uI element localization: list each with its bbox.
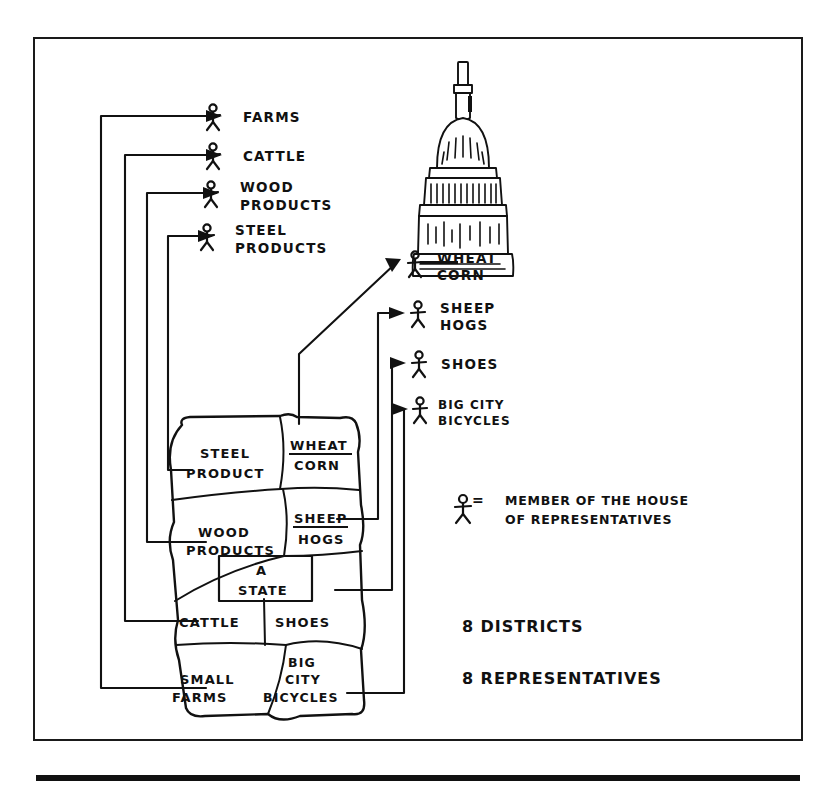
figure-sheep-hogs — [411, 301, 425, 327]
a-state-line2: STATE — [238, 583, 288, 598]
count-representatives: 8 REPRESENTATIVES — [462, 669, 662, 688]
connector-shoes — [335, 357, 406, 590]
label-wheat-corn-line2: CORN — [437, 267, 485, 283]
district-big-city-line2: CITY — [285, 672, 321, 687]
legend-text-line1: MEMBER OF THE HOUSE — [505, 493, 689, 508]
district-steel-product-line2: PRODUCT — [186, 466, 265, 481]
label-steel-products-line2: PRODUCTS — [235, 240, 328, 256]
connector-wheat-corn — [299, 258, 401, 424]
district-steel-product-line1: STEEL — [200, 446, 250, 461]
district-shoes: SHOES — [275, 615, 330, 630]
boundary-cattle-farms — [176, 643, 286, 645]
label-sheep-hogs-line2: HOGS — [440, 317, 488, 333]
legend-text-line2: OF REPRESENTATIVES — [505, 512, 672, 527]
capitol-dome-icon — [413, 62, 514, 276]
label-sheep-hogs-line1: SHEEP — [440, 300, 495, 316]
label-wheat-corn-line1: WHEAT — [437, 250, 497, 266]
label-big-city-bicycles-line1: BIG CITY — [438, 398, 504, 412]
boundary-shoes-bigcity — [286, 641, 362, 649]
boundary-wood-sheep — [283, 489, 287, 556]
district-wood-products-line1: WOOD — [198, 525, 250, 540]
district-big-city-line1: BIG — [288, 655, 316, 670]
district-wheat-corn-line1: WHEAT — [290, 438, 348, 453]
legend-figure-icon — [455, 495, 471, 523]
label-cattle: CATTLE — [243, 148, 306, 164]
district-bicycles: BICYCLES — [263, 690, 339, 705]
label-farms: FARMS — [243, 109, 301, 125]
connector-wood-products — [147, 187, 219, 542]
district-sheep-hogs-line2: HOGS — [298, 532, 345, 547]
diagram-canvas: FARMS CATTLE WOOD PRODUCTS STEEL PRODUCT… — [0, 0, 836, 795]
legend-equals: = — [472, 492, 485, 508]
figure-big-city-bicycles — [413, 397, 427, 423]
label-wood-products-line2: PRODUCTS — [240, 197, 333, 213]
label-wood-products-line1: WOOD — [240, 179, 294, 195]
boundary-steel-wood — [172, 489, 281, 500]
district-small-farms-line1: SMALL — [180, 672, 235, 687]
boundary-cattle-shoes — [264, 599, 265, 645]
district-sheep-hogs-line1: SHEEP — [294, 511, 347, 526]
legend: = MEMBER OF THE HOUSE OF REPRESENTATIVES — [455, 492, 689, 527]
label-shoes: SHOES — [441, 356, 499, 372]
state-map: STEEL PRODUCT WHEAT CORN WOOD PRODUCTS S… — [170, 414, 365, 719]
figure-shoes — [412, 351, 426, 377]
district-cattle: CATTLE — [179, 615, 240, 630]
count-districts: 8 DISTRICTS — [462, 617, 583, 636]
label-big-city-bicycles-line2: BICYCLES — [438, 414, 511, 428]
label-steel-products-line1: STEEL — [235, 222, 287, 238]
boundary-steel-wheat — [280, 417, 284, 489]
district-wheat-corn-line2: CORN — [294, 458, 340, 473]
boundary-wheat-sheep — [281, 488, 359, 490]
district-small-farms-line2: FARMS — [172, 690, 228, 705]
a-state-line1: A — [256, 563, 267, 578]
page-frame — [34, 38, 802, 740]
